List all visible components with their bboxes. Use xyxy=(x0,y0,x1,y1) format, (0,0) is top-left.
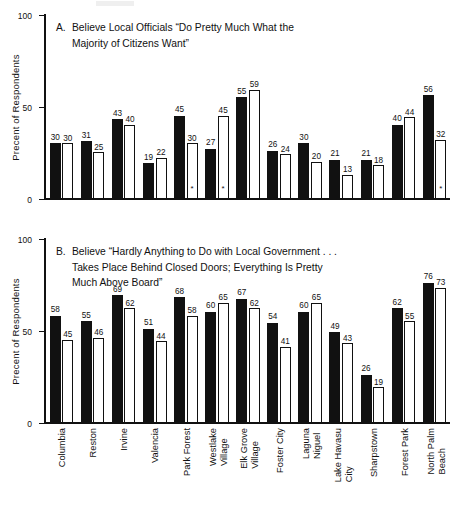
x-axis-label-11: Forest Park xyxy=(400,428,411,476)
bar-value-label: 55 xyxy=(82,312,91,320)
bar-value-label: 40 xyxy=(125,116,134,124)
panel-b-title-line1: Believe “Hardly Anything to Do with Loca… xyxy=(56,244,416,260)
bar-light-b: 62 xyxy=(124,308,135,422)
panel-a: Precent of Respondents 30303125434019224… xyxy=(0,14,454,220)
bar-value-label: 65 xyxy=(312,294,321,302)
bar-value-label: 51 xyxy=(144,319,153,327)
bar-value-label: 13 xyxy=(343,166,352,174)
bar-light-a: 25 xyxy=(93,152,104,198)
y-tick-100-b: 100 xyxy=(39,239,44,240)
x-axis-label-12: North PalmBeach xyxy=(426,428,447,475)
x-label-cell: Foster City xyxy=(265,428,296,507)
bar-dark-b: 76 xyxy=(423,283,434,423)
bar-dark-a: 21 xyxy=(329,160,340,199)
y-tick-50-b: 50 xyxy=(39,331,44,332)
panel-a-title: A. Believe Local Officials “Do Pretty Mu… xyxy=(56,20,416,51)
panel-b-title-line2: Takes Place Behind Closed Doors; Everyth… xyxy=(56,260,416,276)
x-label-cell: Sharpstown xyxy=(358,428,389,507)
panel-a-title-line2: Majority of Citizens Want” xyxy=(56,36,416,52)
panel-b-title: B. Believe “Hardly Anything to Do with L… xyxy=(56,244,416,291)
bar-dark-a: 30 xyxy=(50,143,61,198)
bar-dark-a: 45 xyxy=(174,116,185,199)
bar-dark-b: 60 xyxy=(205,312,216,422)
bar-value-label: 30 xyxy=(63,135,72,143)
bar-dark-a: 43 xyxy=(112,119,123,198)
bar-light-a: 13 xyxy=(342,175,353,199)
bar-light-a: 45* xyxy=(218,116,229,199)
bar-light-b: 19 xyxy=(373,387,384,422)
bar-dark-a: 26 xyxy=(267,151,278,199)
y-tick-100-a: 100 xyxy=(39,15,44,16)
bar-value-label: 45 xyxy=(219,107,228,115)
bar-light-a: 32* xyxy=(435,140,446,199)
bar-value-label: 55 xyxy=(237,88,246,96)
bar-value-label: 41 xyxy=(281,338,290,346)
bar-dark-b: 68 xyxy=(174,297,185,422)
x-label-cell: WestlakeVillage xyxy=(202,428,233,507)
y-axis-label-a: Precent of Respondents xyxy=(8,14,22,200)
bar-dark-a: 31 xyxy=(81,141,92,198)
bar-value-label: 60 xyxy=(206,302,215,310)
bar-value-label: 30 xyxy=(51,134,60,142)
x-axis-label-4: Park Forest xyxy=(181,428,192,476)
bar-light-a: 20 xyxy=(311,162,322,199)
bar-light-b: 58 xyxy=(187,316,198,423)
bar-value-label: 45 xyxy=(63,331,72,339)
x-label-cell: Elk GroveVillage xyxy=(233,428,264,507)
bar-dark-b: 62 xyxy=(392,308,403,422)
panel-a-title-line1: Believe Local Officials “Do Pretty Much … xyxy=(56,20,416,36)
bar-dark-b: 60 xyxy=(298,312,309,422)
bar-light-a: 30* xyxy=(187,143,198,198)
bar-dark-b: 55 xyxy=(81,321,92,422)
bar-value-label: 26 xyxy=(268,141,277,149)
bar-dark-a: 55 xyxy=(236,97,247,198)
asterisk-marker: * xyxy=(191,185,194,193)
bar-dark-a: 56 xyxy=(423,95,434,198)
bar-dark-b: 51 xyxy=(143,329,154,423)
x-axis-label-line2: Village xyxy=(218,428,229,466)
y-tick-label-0-a: 0 xyxy=(27,195,32,204)
bar-value-label: 49 xyxy=(330,323,339,331)
y-tick-50-a: 50 xyxy=(39,107,44,108)
bar-light-a: 22 xyxy=(156,158,167,198)
x-axis-label-5: WestlakeVillage xyxy=(207,428,228,466)
bar-light-b: 46 xyxy=(93,338,104,423)
x-axis-label-line2: City xyxy=(343,428,354,482)
bar-value-label: 43 xyxy=(113,110,122,118)
y-axis-label-text-a: Precent of Respondents xyxy=(10,54,21,160)
x-label-cell: Forest Park xyxy=(390,428,421,507)
scan-artifact xyxy=(96,1,134,6)
x-axis-labels: ColumbiaRestonIrvineValenciaPark ForestW… xyxy=(46,428,452,507)
bar-light-b: 55 xyxy=(404,321,415,422)
bar-value-label: 45 xyxy=(175,106,184,114)
bar-value-label: 25 xyxy=(94,144,103,152)
chart-page: Precent of Respondents 30303125434019224… xyxy=(0,0,454,507)
bar-value-label: 22 xyxy=(156,149,165,157)
bar-dark-b: 49 xyxy=(329,332,340,422)
bar-value-label: 62 xyxy=(125,300,134,308)
bar-dark-a: 40 xyxy=(392,125,403,199)
bar-value-label: 31 xyxy=(82,132,91,140)
bar-value-label: 54 xyxy=(268,313,277,321)
bar-value-label: 73 xyxy=(436,279,445,287)
bar-value-label: 43 xyxy=(343,335,352,343)
x-label-cell: Lake HavasuCity xyxy=(327,428,358,507)
bar-light-b: 41 xyxy=(280,347,291,422)
panel-b: Precent of Respondents 58455546696251446… xyxy=(0,238,454,507)
bar-value-label: 21 xyxy=(362,150,371,158)
bar-value-label: 65 xyxy=(219,294,228,302)
bar-light-a: 59 xyxy=(249,90,260,199)
bar-light-b: 45 xyxy=(62,340,73,423)
x-axis-label-line2: Beach xyxy=(436,428,447,475)
bar-light-a: 44 xyxy=(404,117,415,198)
x-label-cell: Reston xyxy=(77,428,108,507)
x-label-cell: North PalmBeach xyxy=(421,428,452,507)
x-label-cell: Columbia xyxy=(46,428,77,507)
x-label-cell: Park Forest xyxy=(171,428,202,507)
bar-value-label: 76 xyxy=(424,273,433,281)
bar-value-label: 32 xyxy=(436,131,445,139)
bar-light-b: 65 xyxy=(218,303,229,423)
bar-value-label: 27 xyxy=(206,139,215,147)
panel-a-letter: A. xyxy=(56,20,66,36)
x-axis-label-line2: Niguel xyxy=(311,428,322,459)
